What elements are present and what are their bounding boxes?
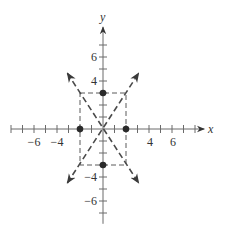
point-marker bbox=[100, 90, 107, 97]
x-tick-label-6: 6 bbox=[170, 135, 176, 149]
x-tick-label-neg6: −6 bbox=[28, 135, 41, 149]
y-tick-label-neg6: −6 bbox=[84, 194, 97, 208]
x-tick-label-4: 4 bbox=[147, 135, 153, 149]
point-marker bbox=[77, 126, 84, 133]
hyperbola-diagram: x y −6 −4 4 6 6 4 −4 −6 bbox=[0, 0, 225, 237]
x-tick-label-neg4: −4 bbox=[51, 135, 64, 149]
y-tick-label-neg4: −4 bbox=[84, 170, 97, 184]
coordinate-plane: x y −6 −4 4 6 6 4 −4 −6 bbox=[0, 0, 225, 237]
axes bbox=[11, 27, 204, 224]
point-marker bbox=[100, 162, 107, 169]
y-axis-label: y bbox=[99, 10, 106, 24]
point-marker bbox=[123, 126, 130, 133]
y-tick-label-6: 6 bbox=[91, 50, 97, 64]
x-axis-label: x bbox=[207, 122, 214, 136]
y-tick-label-4: 4 bbox=[91, 74, 97, 88]
